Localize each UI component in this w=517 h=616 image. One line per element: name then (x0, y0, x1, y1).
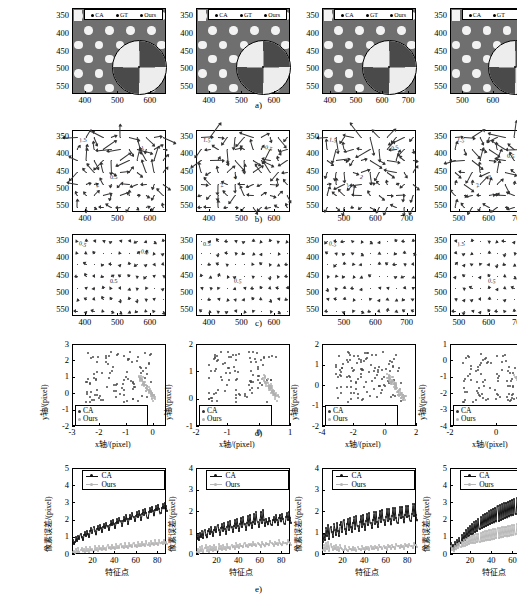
row-label-c: c) (0, 318, 517, 330)
y-tick-mark (450, 502, 453, 503)
legend-label: Ours (479, 481, 494, 490)
y-axis-label: 像素误差/(pixel) (420, 496, 431, 552)
y-tick-mark (450, 468, 453, 469)
y-tick-mark (450, 485, 453, 486)
x-axis-tick: 60 (498, 555, 517, 566)
y-tick-mark (450, 520, 453, 521)
legend-item-ours: Ours (464, 481, 517, 490)
x-tick-mark (491, 551, 492, 554)
figure-root: CAGTOurs350400450500550400500600CAGTOurs… (0, 0, 517, 616)
y-axis-tick: 4 (424, 480, 447, 491)
x-tick-mark (470, 551, 471, 554)
y-tick-mark (450, 537, 453, 538)
x-tick-mark (512, 551, 513, 554)
y-tick-mark (450, 554, 453, 555)
legend-line-icon (464, 476, 476, 477)
legend-line-icon (464, 484, 476, 485)
row-label-a: a) (0, 100, 517, 112)
row-label-b: b) (0, 214, 517, 226)
panel-line-4: CAOurs01234520406080像素误差/(pixel)特征点 (0, 0, 517, 616)
y-axis-tick: 5 (424, 463, 447, 474)
row-label-d: d) (0, 428, 517, 440)
row-label-e: e) (0, 584, 517, 596)
x-axis-label: 特征点 (482, 566, 506, 577)
plot-area: CAOurs (450, 468, 517, 554)
legend-line: CAOurs (460, 470, 517, 490)
